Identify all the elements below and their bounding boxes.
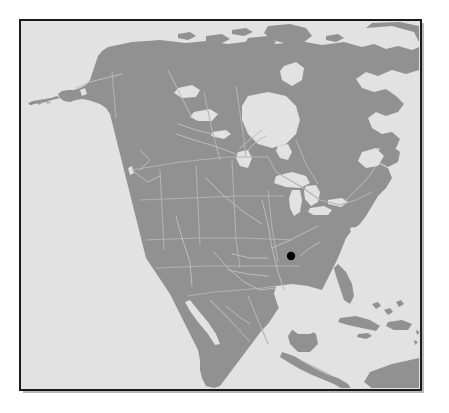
map-svg-canvas xyxy=(0,0,449,413)
site-location-marker[interactable] xyxy=(287,252,295,260)
locator-map-figure xyxy=(0,0,449,413)
map-content-group xyxy=(22,22,420,390)
